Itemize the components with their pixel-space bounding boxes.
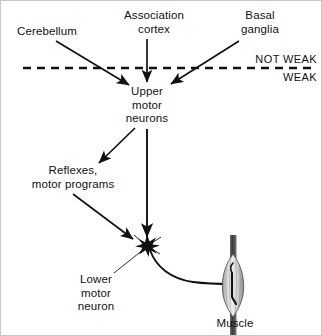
axon-path (150, 250, 232, 284)
label-reflexes-motor-programs: Reflexes, motor programs (19, 164, 127, 191)
label-upper-motor-neurons: Upper motor neurons (113, 85, 181, 126)
label-not-weak: NOT WEAK (247, 53, 317, 67)
figure-canvas: Cerebellum Association cortex Basal gang… (0, 0, 322, 336)
arrow-basal-ganglia-to-upper (171, 41, 239, 84)
label-muscle: Muscle (206, 317, 264, 331)
leader-line-lower-motor-neuron (114, 249, 144, 273)
arrow-cerebellum-to-upper (56, 41, 129, 85)
label-weak: WEAK (247, 71, 317, 85)
arrow-upper-to-reflexes (99, 128, 135, 163)
label-cerebellum: Cerebellum (5, 25, 89, 39)
label-basal-ganglia: Basal ganglia (223, 9, 297, 36)
label-association-cortex: Association cortex (111, 9, 197, 36)
arrow-reflexes-to-lower-motor-neuron (73, 194, 133, 239)
label-lower-motor-neuron: Lower motor neuron (63, 273, 129, 314)
